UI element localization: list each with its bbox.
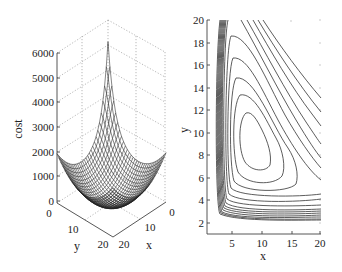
contour-y-axis-label: y: [177, 127, 191, 133]
z-tick-1000: 1000: [32, 170, 55, 182]
contour-y-tick-20: 20: [193, 14, 205, 26]
x-axis-label-3d: x: [146, 238, 152, 252]
contour-lines: [216, 20, 321, 220]
contour-plot: 20 18 16 14 12 10 8 6 4 2 5 10 15 20 x y: [177, 14, 326, 263]
contour-y-tick-18: 18: [193, 37, 205, 49]
z-tick-5000: 5000: [32, 72, 55, 84]
contour-x-tick-5: 5: [229, 237, 235, 249]
contour-x-tick-10: 10: [257, 237, 269, 249]
y-tick-20: 20: [98, 238, 110, 250]
x-tick-0: 0: [169, 206, 175, 218]
z-tick-0: 0: [49, 195, 55, 207]
contour-x-tick-20: 20: [315, 237, 327, 249]
x-tick-10: 10: [145, 221, 157, 233]
z-tick-3000: 3000: [32, 121, 55, 133]
z-tick-6000: 6000: [32, 47, 55, 59]
contour-y-tick-10: 10: [193, 127, 205, 139]
contour-y-tick-6: 6: [199, 172, 205, 184]
contour-y-tick-12: 12: [193, 104, 204, 116]
contour-y-tick-14: 14: [193, 82, 205, 94]
contour-y-tick-8: 8: [199, 149, 205, 161]
contour-y-tick-16: 16: [193, 59, 205, 71]
contour-x-tick-15: 15: [287, 237, 299, 249]
cost-surface-mesh: [57, 42, 166, 209]
y-axis-label-3d: y: [74, 239, 80, 253]
y-tick-0: 0: [46, 207, 52, 219]
x-tick-20: 20: [119, 238, 131, 250]
contour-y-tick-2: 2: [199, 217, 205, 229]
z-tick-2000: 2000: [32, 146, 55, 158]
surface-plot: 6000 5000 4000 3000 2000 1000 0 0 10 20 …: [11, 20, 175, 253]
contour-x-axis-label: x: [260, 249, 266, 263]
z-tick-4000: 4000: [32, 96, 55, 108]
figure: 6000 5000 4000 3000 2000 1000 0 0 10 20 …: [0, 0, 342, 272]
contour-y-tick-4: 4: [199, 194, 205, 206]
cost-axis-label: cost: [11, 119, 25, 139]
y-tick-10: 10: [68, 223, 80, 235]
